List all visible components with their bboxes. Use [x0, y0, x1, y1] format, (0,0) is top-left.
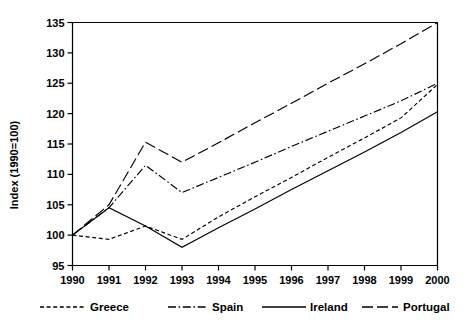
legend-label-portugal: Portugal — [403, 301, 450, 313]
x-tick-label: 1990 — [60, 274, 84, 286]
x-tick-label: 1993 — [170, 274, 194, 286]
legend-label-greece: Greece — [90, 301, 129, 313]
x-tick-label: 2000 — [425, 274, 449, 286]
plot-frame-path — [73, 23, 438, 266]
x-tick-label: 1999 — [389, 274, 413, 286]
y-tick-label: 95 — [52, 260, 64, 272]
x-axis-ticks — [73, 266, 438, 271]
series-line-portugal — [73, 23, 438, 236]
y-tick-label: 105 — [46, 199, 64, 211]
legend-label-spain: Spain — [212, 301, 243, 313]
x-tick-label: 1994 — [206, 274, 231, 286]
line-chart: 95100105110115120125130135 1990199119921… — [0, 0, 469, 336]
x-tick-label: 1998 — [352, 274, 376, 286]
series-line-spain — [73, 83, 438, 235]
series-lines — [73, 23, 438, 248]
y-tick-label: 110 — [47, 168, 65, 180]
y-axis-tick-labels: 95100105110115120125130135 — [46, 17, 64, 272]
x-axis-tick-labels: 1990199119921993199419951996199719981999… — [60, 274, 449, 286]
x-tick-label: 1996 — [279, 274, 303, 286]
y-axis-title: Index (1990=100) — [8, 120, 20, 209]
y-tick-label: 100 — [46, 229, 64, 241]
x-tick-label: 1995 — [243, 274, 267, 286]
y-tick-label: 135 — [46, 17, 64, 29]
y-tick-label: 130 — [46, 47, 64, 59]
y-tick-label: 125 — [46, 77, 64, 89]
chart-canvas: 95100105110115120125130135 1990199119921… — [0, 0, 469, 336]
x-tick-label: 1991 — [97, 274, 121, 286]
x-tick-label: 1992 — [133, 274, 157, 286]
series-line-ireland — [73, 112, 438, 247]
chart-legend: GreeceSpainIrelandPortugal — [40, 301, 450, 313]
y-tick-label: 115 — [47, 138, 65, 150]
plot-frame — [73, 23, 438, 266]
y-axis-ticks — [68, 23, 73, 266]
legend-label-ireland: Ireland — [310, 301, 348, 313]
y-tick-label: 120 — [46, 108, 64, 120]
x-tick-label: 1997 — [316, 274, 340, 286]
